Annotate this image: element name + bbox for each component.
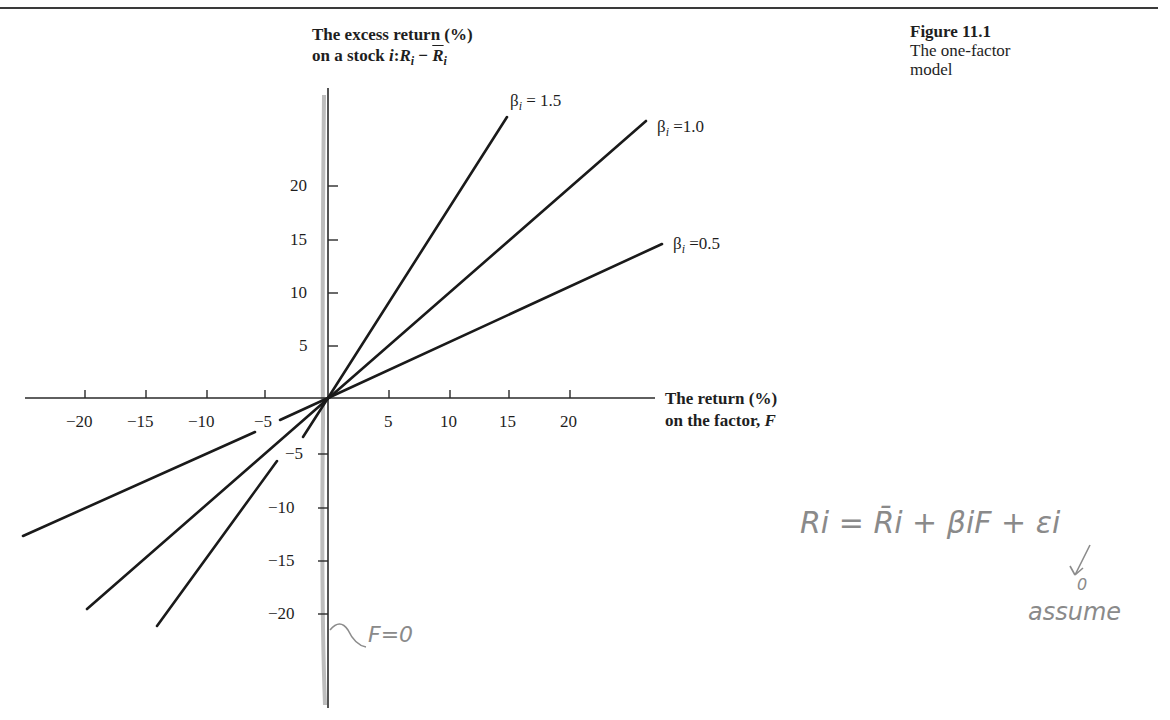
line-beta-1.0 bbox=[87, 121, 646, 609]
chart-plot bbox=[0, 0, 1170, 720]
handwritten-equation: Ri = R̄i + βiF + εi bbox=[800, 505, 1060, 540]
line-beta-1.5-lower-b bbox=[157, 461, 277, 626]
x-tick-label: −10 bbox=[188, 412, 215, 432]
handwritten-f-equals-zero: F=0 bbox=[368, 622, 413, 647]
beta-value: =0.5 bbox=[685, 234, 720, 253]
handwritten-assume: assume bbox=[1028, 598, 1121, 626]
y-tick-label: −15 bbox=[268, 551, 295, 571]
x-tick-label: −15 bbox=[127, 412, 154, 432]
tilde-mark bbox=[330, 624, 366, 647]
x-tick-label: 15 bbox=[499, 412, 516, 432]
y-tick-label: 10 bbox=[290, 283, 307, 303]
beta-0.5-label: βi =0.5 bbox=[673, 234, 720, 257]
beta-symbol: β bbox=[510, 91, 519, 110]
beta-symbol: β bbox=[673, 234, 682, 253]
x-tick-label: 20 bbox=[560, 412, 577, 432]
handwritten-zero: 0 bbox=[1077, 575, 1087, 594]
beta-symbol: β bbox=[657, 117, 666, 136]
y-tick-label: 20 bbox=[290, 176, 307, 196]
arrow-mark bbox=[1070, 545, 1090, 575]
handwritten-marks bbox=[330, 545, 1090, 647]
y-tick-label: −10 bbox=[268, 498, 295, 518]
y-tick-label: −5 bbox=[285, 444, 303, 464]
x-tick-label: −20 bbox=[66, 412, 93, 432]
y-tick-label: 5 bbox=[299, 336, 308, 356]
y-tick-label: −20 bbox=[268, 604, 295, 624]
x-tick-label: 5 bbox=[384, 412, 393, 432]
line-beta-0.5-lower-b bbox=[23, 432, 255, 536]
beta-value: =1.0 bbox=[669, 117, 704, 136]
y-tick-label: 15 bbox=[290, 230, 307, 250]
x-tick-label: 10 bbox=[440, 412, 457, 432]
x-tick-label: −5 bbox=[254, 412, 272, 432]
beta-value: = 1.5 bbox=[522, 91, 561, 110]
beta-1.0-label: βi =1.0 bbox=[657, 117, 704, 140]
beta-1.5-label: βi = 1.5 bbox=[510, 91, 561, 114]
